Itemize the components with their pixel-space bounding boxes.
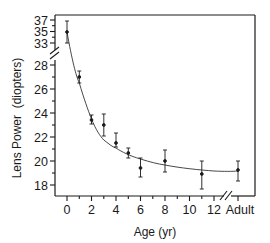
data-point-age-11 — [200, 161, 204, 189]
x-tick-label: Adult — [226, 203, 255, 217]
x-tick-label: 6 — [137, 203, 144, 217]
data-point-age-1 — [77, 71, 81, 83]
x-tick-label: 8 — [162, 203, 169, 217]
x-tick-label: 12 — [207, 203, 221, 217]
x-axis-title: Age (yr) — [134, 225, 177, 239]
y-tick-label: 22 — [34, 131, 48, 145]
data-point-age-3 — [102, 114, 106, 136]
y-axis-ticks — [50, 20, 55, 185]
y-axis-title: Lens Power (diopters) — [10, 58, 24, 179]
y-tick-label: 18 — [34, 179, 48, 193]
data-point-age-4 — [114, 133, 118, 147]
plot-frame — [55, 15, 255, 196]
lens-power-chart: 37 35 33 28 26 24 22 20 18 — [0, 0, 270, 243]
y-tick-label: 28 — [34, 59, 48, 73]
x-axis-ticks — [67, 196, 238, 201]
fit-curve — [67, 32, 238, 171]
data-point-adult — [236, 161, 240, 181]
y-tick-label: 20 — [34, 155, 48, 169]
data-points — [65, 21, 240, 189]
x-axis-tick-labels: 0 2 4 6 8 10 12 Adult — [64, 203, 255, 217]
y-axis-tick-labels: 37 35 33 28 26 24 22 20 18 — [34, 14, 48, 193]
data-point-age-8 — [163, 150, 167, 172]
x-tick-label: 0 — [64, 203, 71, 217]
y-tick-label: 33 — [34, 37, 48, 51]
y-tick-label: 24 — [34, 107, 48, 121]
x-tick-label: 4 — [113, 203, 120, 217]
x-tick-label: 2 — [88, 203, 95, 217]
data-point-age-5 — [126, 148, 130, 158]
x-tick-label: 10 — [183, 203, 197, 217]
data-point-age-6 — [139, 158, 143, 177]
y-tick-label: 26 — [34, 83, 48, 97]
